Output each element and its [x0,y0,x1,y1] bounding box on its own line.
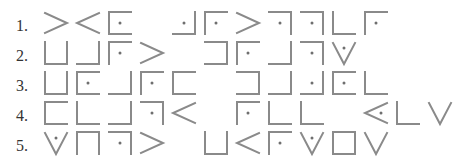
pigpen-c-dot-icon [75,70,101,96]
pigpen-l-icon [299,100,325,126]
pigpen-7-dot-icon [299,40,325,66]
cipher-line-1: 1. [0,8,459,38]
pigpen-l-icon [267,100,293,126]
pigpen-v-dot-icon [331,40,357,66]
pigpen-7-dot-icon [107,130,133,156]
pigpen-j-dot-icon [171,10,197,36]
pigpen-j-icon [267,70,293,96]
pigpen-u-icon [43,40,69,66]
pigpen-c-icon [43,100,69,126]
pigpen-l-icon [395,100,421,126]
pigpen-j-dot-icon [299,70,325,96]
pigpen-v-dot-icon [43,130,69,156]
pigpen-lt-icon [171,100,197,126]
pigpen-gt-icon [139,40,165,66]
pigpen-v-icon [427,100,453,126]
line-number: 1. [16,16,28,36]
pigpen-gt-icon [43,10,69,36]
pigpen-gt-icon [139,130,165,156]
pigpen-c-dot-icon [107,10,133,36]
line-number: 3. [16,76,28,96]
pigpen-u-icon [43,70,69,96]
pigpen-l-icon [363,70,389,96]
pigpen-l-icon [75,100,101,126]
pigpen-lt-icon [235,130,261,156]
pigpen-7-dot-icon [139,100,165,126]
pigpen-f-dot-icon [139,70,165,96]
pigpen-n-icon [75,130,101,156]
pigpen-j-icon [107,70,133,96]
pigpen-v-dot-icon [299,130,325,156]
cipher-line-2: 2. [0,38,459,68]
pigpen-v-icon [363,130,389,156]
pigpen-j-icon [267,40,293,66]
pigpen-box-icon [331,130,357,156]
pigpen-c-dot-icon [331,70,357,96]
cipher-line-3: 3. [0,68,459,98]
pigpen-reverse-c-icon [203,40,229,66]
cipher-line-4: 4. [0,98,459,128]
pigpen-f-dot-icon [107,40,133,66]
pigpen-lt-dot-icon [363,100,389,126]
line-number: 2. [16,46,28,66]
pigpen-f-dot-icon [235,40,261,66]
pigpen-lt-icon [75,10,101,36]
pigpen-reverse-c-icon [235,70,261,96]
pigpen-f-dot-icon [235,100,261,126]
pigpen-f-dot-icon [203,10,229,36]
pigpen-7-dot-icon [299,10,325,36]
line-number: 5. [16,136,28,156]
pigpen-f-dot-icon [363,10,389,36]
pigpen-f-dot-icon [267,130,293,156]
pigpen-u-icon [203,130,229,156]
pigpen-c-icon [171,70,197,96]
line-number: 4. [16,106,28,126]
pigpen-j-icon [75,40,101,66]
pigpen-7-dot-icon [267,10,293,36]
pigpen-j-icon [107,100,133,126]
pigpen-gt-icon [235,10,261,36]
pigpen-l-icon [331,10,357,36]
cipher-line-5: 5. [0,128,459,158]
